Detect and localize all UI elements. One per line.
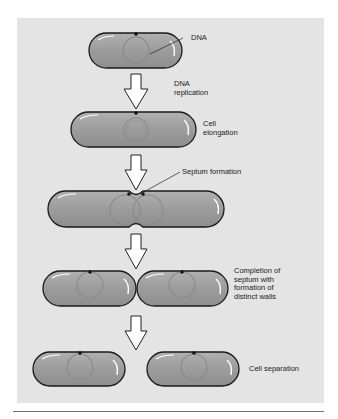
- label-septum-formation: Septum formation: [182, 168, 241, 177]
- arrow-down-icon: [125, 316, 147, 350]
- label-line: replication: [174, 89, 208, 98]
- label-line: elongation: [203, 129, 238, 138]
- arrow-down-icon: [125, 234, 147, 269]
- septum-pointer: [142, 172, 180, 193]
- label-line: distinct walls: [234, 293, 280, 302]
- cell-stage-1: [89, 32, 183, 68]
- label-dna: DNA: [191, 34, 207, 43]
- arrow-down-icon: [125, 155, 147, 190]
- cell-stage-2: [71, 111, 196, 147]
- label-dna-replication: DNA replication: [174, 80, 208, 97]
- arrow-down-icon: [124, 74, 148, 109]
- cell-stage-4: [43, 270, 228, 306]
- label-completion-of-septum: Completion of septum with formation of d…: [234, 267, 280, 301]
- label-cell-separation: Cell separation: [249, 365, 299, 374]
- label-cell-elongation: Cell elongation: [203, 120, 238, 137]
- binary-fission-diagram: [0, 0, 338, 419]
- cell-stage-5: [33, 351, 239, 386]
